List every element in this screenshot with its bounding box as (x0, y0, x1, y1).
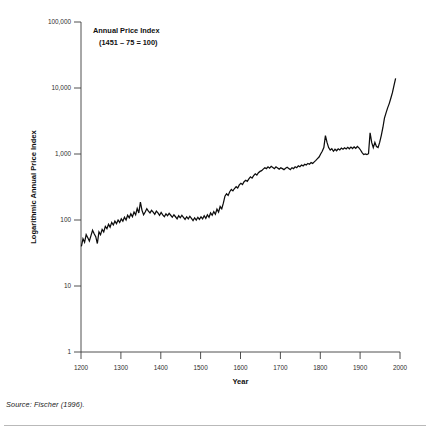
y-tick-label-100: 100 (60, 216, 71, 223)
y-tick-label-10000: 10,000 (51, 84, 71, 91)
y-tick-label-10: 10 (64, 282, 72, 289)
x-tick-label-2000: 2000 (393, 364, 408, 371)
annotation-line-1: Annual Price Index (93, 26, 160, 35)
price-index-line-chart: 100,000 10,000 1,000 100 10 1 1200 1300 … (0, 0, 430, 400)
x-tick-label-1900: 1900 (353, 364, 368, 371)
y-tick-label-1: 1 (67, 348, 71, 355)
y-tick-label-1000: 1,000 (55, 150, 71, 157)
x-tick-label-1200: 1200 (74, 364, 89, 371)
x-tick-label-1800: 1800 (313, 364, 328, 371)
figure-container: 100,000 10,000 1,000 100 10 1 1200 1300 … (0, 0, 430, 439)
x-tick-label-1400: 1400 (154, 364, 169, 371)
x-tick-label-1700: 1700 (273, 364, 288, 371)
x-tick-label-1500: 1500 (193, 364, 208, 371)
x-tick-label-1600: 1600 (233, 364, 248, 371)
x-axis-title: Year (232, 377, 248, 386)
y-axis-title: Logarithmic Annual Price Index (29, 129, 38, 243)
x-tick-label-1300: 1300 (114, 364, 129, 371)
annotation-line-2: (1451 – 75 = 100) (99, 38, 158, 47)
source-note: Source: Fischer (1996). (6, 400, 85, 409)
chart-background (0, 0, 430, 400)
y-tick-label-100000: 100,000 (48, 18, 72, 25)
bottom-divider (4, 425, 426, 426)
